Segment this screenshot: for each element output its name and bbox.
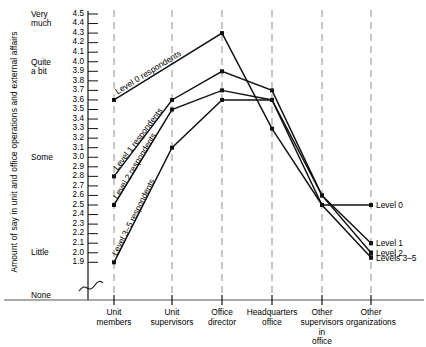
x-axis-label: Headquartersoffice [247,308,298,328]
y-tick-label: 3.5 [62,105,84,113]
y-tick-label: 2.3 [62,220,84,228]
series-end-label: Level 1 [376,238,403,248]
y-tick-label: 4.2 [62,38,84,46]
y-tick-label: 2.0 [62,249,84,257]
y-category-label-line: Little [31,247,49,257]
y-tick-label: 2.9 [62,163,84,171]
x-axis-label: Unitsupervisors [151,308,194,328]
y-tick-label: 3.9 [62,67,84,75]
x-axis-label: Unitmembers [97,308,132,328]
y-tick-label: 2.2 [62,229,84,237]
y-category-label-line: much [31,18,51,28]
y-category-label-line: a bit [31,66,47,76]
y-tick-label: 4.0 [62,58,84,66]
y-tick-label: 3.7 [62,86,84,94]
y-category-label-line: Very [31,9,48,19]
y-tick-label: 4.1 [62,48,84,56]
y-tick-label: 4.3 [62,29,84,37]
y-category-label-line: None [31,290,51,300]
y-tick-label: 3.6 [62,96,84,104]
y-tick-label: 2.7 [62,182,84,190]
y-category-label: None [31,291,71,301]
y-tick-label: 3.4 [62,115,84,123]
y-tick-label: 3.2 [62,134,84,142]
y-tick-label: 2.1 [62,239,84,247]
y-tick-label: 2.8 [62,172,84,180]
x-axis-label: Othersupervisorsinoffice [301,308,344,347]
y-category-label-line: Quite [31,57,51,67]
y-tick-label: 2.6 [62,191,84,199]
y-tick-label: 3.8 [62,77,84,85]
x-axis-label: Officedirector [208,308,236,328]
y-tick-label: 2.5 [62,201,84,209]
y-tick-label: 4.4 [62,19,84,27]
series-end-label: Level 0 [376,200,403,210]
x-axis-label: Otherorganizations [346,308,396,328]
y-tick-label: 3.0 [62,153,84,161]
y-tick-label: 3.1 [62,144,84,152]
y-tick-label: 3.3 [62,124,84,132]
y-tick-label: 4.5 [62,10,84,18]
y-tick-label: 2.4 [62,210,84,218]
y-tick-label: 1.9 [62,258,84,266]
y-category-label-line: Some [31,152,53,162]
series-end-label: Levels 3–5 [376,253,417,263]
